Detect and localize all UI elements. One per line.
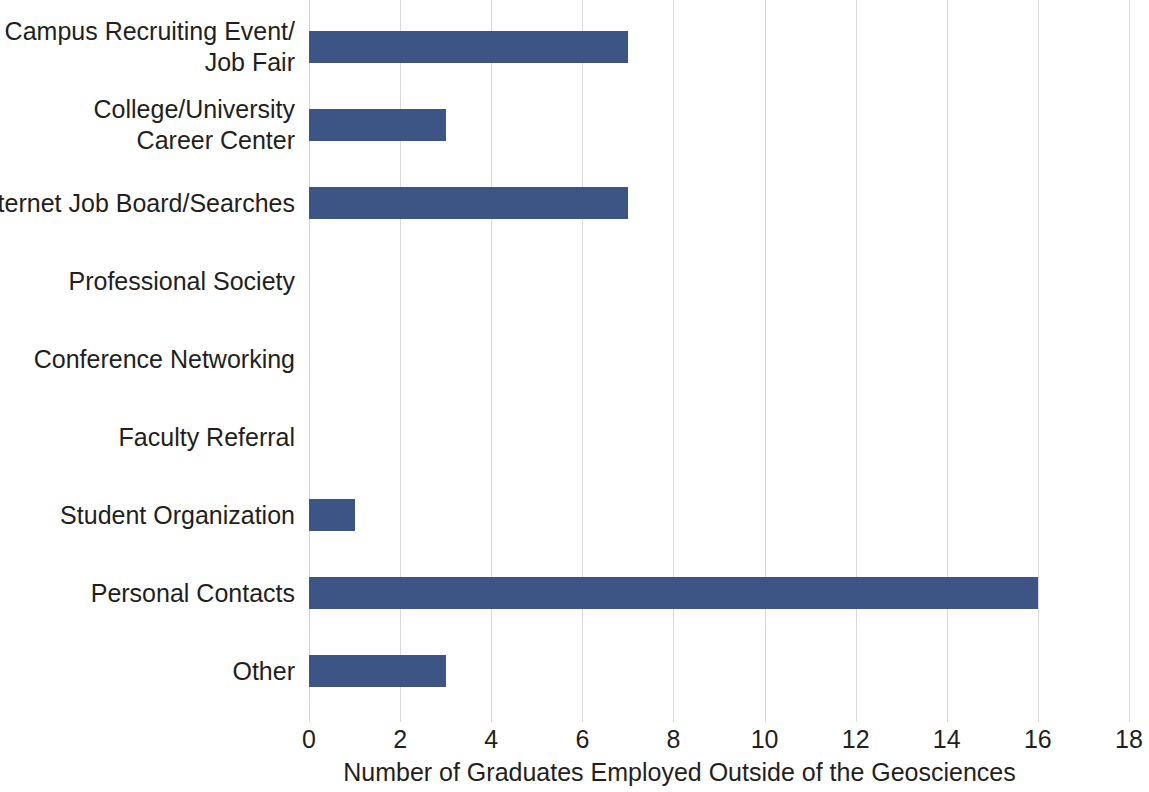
x-axis-tick-label: 4 [484, 724, 498, 754]
category-label-line: Career Center [137, 125, 295, 156]
category-label: Faculty Referral [0, 398, 295, 476]
bar [309, 109, 446, 141]
bar [309, 31, 628, 63]
category-row: Campus Recruiting Event/Job Fair [0, 8, 1149, 86]
x-axis-tick-label: 14 [933, 724, 961, 754]
x-axis-tick-label: 18 [1115, 724, 1143, 754]
category-row: Faculty Referral [0, 398, 1149, 476]
x-axis-tick-label: 0 [302, 724, 316, 754]
category-label-line: Other [232, 656, 295, 687]
x-axis-tick-label: 16 [1024, 724, 1052, 754]
category-row: College/UniversityCareer Center [0, 86, 1149, 164]
category-label-line: Student Organization [60, 500, 295, 531]
bar [309, 655, 446, 687]
category-row: Other [0, 632, 1149, 710]
bar [309, 499, 355, 531]
bar-chart: 024681012141618 Campus Recruiting Event/… [0, 0, 1149, 792]
category-row: Student Organization [0, 476, 1149, 554]
bar [309, 577, 1038, 609]
x-axis-tick-label: 6 [575, 724, 589, 754]
x-axis-tick-label: 12 [842, 724, 870, 754]
category-label-line: Faculty Referral [119, 422, 295, 453]
category-row: Conference Networking [0, 320, 1149, 398]
category-label: Internet Job Board/Searches [0, 164, 295, 242]
category-label: College/UniversityCareer Center [0, 86, 295, 164]
category-label-line: College/University [94, 94, 295, 125]
category-label: Conference Networking [0, 320, 295, 398]
bar [309, 187, 628, 219]
category-label-line: Campus Recruiting Event/ [5, 16, 295, 47]
category-label: Personal Contacts [0, 554, 295, 632]
category-row: Internet Job Board/Searches [0, 164, 1149, 242]
category-label-line: Professional Society [68, 266, 295, 297]
category-label: Other [0, 632, 295, 710]
category-row: Professional Society [0, 242, 1149, 320]
category-label-line: Personal Contacts [91, 578, 295, 609]
category-label-line: Job Fair [205, 47, 295, 78]
category-label-line: Conference Networking [34, 344, 295, 375]
category-label: Student Organization [0, 476, 295, 554]
x-axis-title: Number of Graduates Employed Outside of … [0, 757, 1149, 787]
x-axis-tick-label: 10 [751, 724, 779, 754]
x-axis-tick-label: 2 [393, 724, 407, 754]
x-axis-tick-label: 8 [666, 724, 680, 754]
category-row: Personal Contacts [0, 554, 1149, 632]
category-label: Professional Society [0, 242, 295, 320]
category-label-line: Internet Job Board/Searches [0, 188, 295, 219]
category-label: Campus Recruiting Event/Job Fair [0, 8, 295, 86]
